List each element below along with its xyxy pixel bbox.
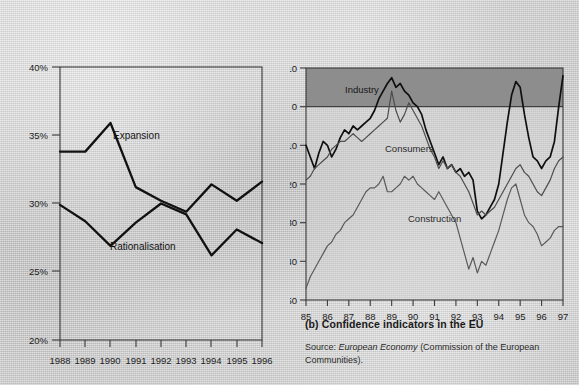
left-chart-panel: 40% 35% 30% 25% 20% 1988 1989: [0, 0, 290, 385]
left-xtick-1989: 1989: [74, 355, 95, 366]
series-label-expansion: Expansion: [113, 130, 160, 141]
series-label-construction: Construction: [408, 213, 461, 224]
left-ytick-20: 20%: [29, 335, 49, 346]
left-ytick-30: 30%: [29, 198, 49, 209]
figure-container: 40% 35% 30% 25% 20% 1988 1989: [0, 0, 579, 385]
right-ytick-0: 0: [292, 101, 297, 112]
left-series-lines: [60, 123, 262, 255]
left-y-ticks: [52, 67, 60, 340]
left-ytick-40: 40%: [29, 62, 49, 73]
series-label-rationalisation: Rationalisation: [110, 241, 176, 252]
right-y-tick-labels: 10 0 -10 -20 -30 -40 -50: [290, 63, 297, 306]
left-xtick-1988: 1988: [49, 355, 70, 366]
left-xtick-1995: 1995: [226, 355, 247, 366]
right-y-ticks: [300, 68, 306, 300]
left-x-tick-labels: 1988 1989 1990 1991 1992 1993 1994 1995 …: [49, 355, 272, 366]
left-chart-svg: 40% 35% 30% 25% 20% 1988 1989: [0, 0, 290, 385]
left-ytick-35: 35%: [29, 130, 49, 141]
right-ytick-m40: -40: [290, 256, 297, 267]
source-publication: European Economy: [339, 342, 418, 352]
right-xtick-label-94: 94: [493, 311, 504, 322]
right-x-ticks: [306, 300, 563, 306]
right-ytick-10: 10: [290, 63, 297, 74]
left-xtick-1990: 1990: [99, 355, 120, 366]
left-xtick-1993: 1993: [175, 355, 196, 366]
left-xtick-1992: 1992: [150, 355, 171, 366]
caption-text: Confidence indicators in the EU: [322, 318, 484, 330]
right-xtick-label-95: 95: [515, 311, 526, 322]
right-ytick-m30: -30: [290, 217, 297, 228]
series-label-consumers: Consumers: [385, 143, 434, 154]
right-ytick-m10: -10: [290, 140, 297, 151]
source-prefix: Source:: [305, 342, 336, 352]
series-label-industry: Industry: [345, 84, 379, 95]
right-xtick-label-96: 96: [536, 311, 547, 322]
left-series-expansion: [60, 123, 262, 212]
figure-source: Source: European Economy (Commission of …: [305, 341, 565, 366]
left-ytick-25: 25%: [29, 266, 49, 277]
right-ytick-m20: -20: [290, 179, 297, 190]
left-x-ticks: [60, 340, 262, 347]
left-xtick-1991: 1991: [125, 355, 146, 366]
right-ytick-m50: -50: [290, 295, 297, 306]
figure-caption-title: (b) Confidence indicators in the EU: [305, 318, 484, 330]
caption-label: (b): [305, 318, 319, 330]
left-xtick-1994: 1994: [200, 355, 221, 366]
right-xtick-label-97: 97: [558, 311, 569, 322]
left-xtick-1996: 1996: [251, 355, 272, 366]
left-y-tick-labels: 40% 35% 30% 25% 20%: [29, 62, 49, 346]
